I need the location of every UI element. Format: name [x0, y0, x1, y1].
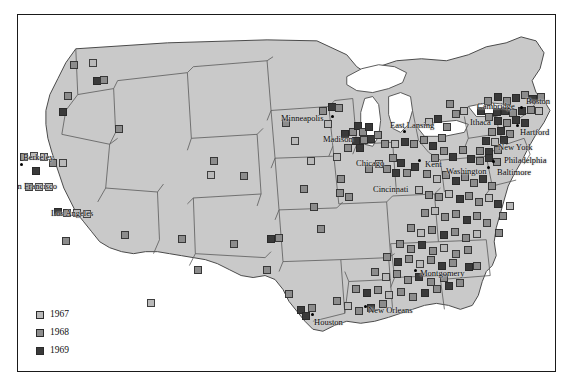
map-marker-1967: [385, 291, 393, 299]
map-marker-1968: [451, 228, 459, 236]
map-marker-1967: [440, 244, 448, 252]
map-marker-1968: [465, 192, 473, 200]
map-marker-1969: [465, 263, 473, 271]
map-marker-1969: [440, 231, 448, 239]
legend-item-1969: 1969: [36, 343, 69, 359]
map-marker-1968: [495, 229, 503, 237]
city-label: Minneapolis: [281, 114, 324, 123]
map-marker-1968: [464, 246, 472, 254]
legend-item-1967: 1967: [36, 307, 69, 323]
map-marker-1967: [506, 202, 514, 210]
map-marker-1969: [302, 312, 310, 320]
city-label: Baltimore: [497, 168, 531, 177]
map-marker-1969: [467, 155, 475, 163]
map-marker-1968: [470, 179, 478, 187]
map-marker-1967: [147, 299, 155, 307]
legend-item-1968: 1968: [36, 325, 69, 341]
map-marker-1967: [416, 260, 424, 268]
map-marker-1969: [418, 241, 426, 249]
map-marker-1969: [356, 144, 364, 152]
map-marker-1967: [485, 194, 493, 202]
map-marker-1967: [307, 157, 315, 165]
map-marker-1968: [462, 234, 470, 242]
city-label: San Francisco: [17, 182, 57, 191]
legend-label: 1968: [50, 328, 69, 338]
map-marker-1968: [421, 209, 429, 217]
map-marker-1968: [405, 255, 413, 263]
map-marker-1969: [429, 142, 437, 150]
map-marker-1968: [407, 224, 415, 232]
map-marker-1968: [333, 297, 341, 305]
map-marker-1967: [344, 302, 352, 310]
legend: 196719681969: [36, 307, 69, 361]
map-marker-1968: [440, 147, 448, 155]
map-marker-1969: [365, 123, 373, 131]
map-marker-1969: [494, 117, 502, 125]
map-marker-1967: [391, 140, 399, 148]
map-marker-1967: [460, 107, 468, 115]
map-marker-1968: [407, 245, 415, 253]
city-label: Montgomery: [420, 269, 464, 278]
map-marker-1968: [503, 119, 511, 127]
map-canvas: [18, 15, 555, 371]
map-marker-1968: [275, 234, 283, 242]
city-label: Philadelphia: [504, 156, 547, 165]
map-marker-1968: [335, 104, 343, 112]
map-marker-1968: [441, 213, 449, 221]
map-frame: BerkeleySan FranciscoLos AngelesMinneapo…: [17, 14, 556, 372]
city-dot: [418, 159, 421, 162]
map-marker-1968: [420, 136, 428, 144]
map-marker-1968: [240, 172, 248, 180]
map-marker-1968: [352, 285, 360, 293]
city-label: Madison: [323, 135, 353, 144]
map-marker-1969: [456, 195, 464, 203]
map-marker-1967: [89, 59, 97, 67]
city-label: Boston: [526, 97, 550, 106]
map-marker-1967: [382, 273, 390, 281]
map-marker-1969: [494, 200, 502, 208]
map-marker-1969: [421, 289, 429, 297]
map-marker-1968: [263, 266, 271, 274]
map-marker-1968: [423, 170, 431, 178]
map-marker-1968: [476, 147, 484, 155]
map-marker-1969: [411, 163, 419, 171]
map-marker-1968: [337, 175, 345, 183]
city-label: Ithaca: [470, 118, 491, 127]
map-marker-1968: [64, 92, 72, 100]
dark-gray-square: [36, 347, 44, 355]
map-marker-1968: [70, 61, 78, 69]
map-marker-1969: [363, 289, 371, 297]
map-marker-1968: [178, 235, 186, 243]
map-marker-1968: [374, 286, 382, 294]
city-label: Kent: [425, 160, 442, 169]
map-marker-1968: [403, 169, 411, 177]
map-marker-1968: [397, 288, 405, 296]
map-marker-1968: [452, 250, 460, 258]
map-marker-1967: [431, 207, 439, 215]
map-marker-1968: [381, 140, 389, 148]
map-marker-1969: [59, 108, 67, 116]
map-marker-1968: [452, 210, 460, 218]
map-marker-1968: [435, 193, 443, 201]
map-marker-1968: [371, 268, 379, 276]
map-marker-1968: [389, 154, 397, 162]
medium-gray-square: [36, 329, 44, 337]
city-label: Cincinnati: [373, 185, 408, 194]
map-marker-1967: [417, 229, 425, 237]
city-label: East Lansing: [390, 121, 434, 130]
map-marker-1968: [355, 307, 363, 315]
city-label: New Orleans: [368, 306, 413, 315]
map-marker-1968: [374, 131, 382, 139]
map-marker-1969: [397, 159, 405, 167]
map-marker-1968: [452, 110, 460, 118]
map-marker-1969: [445, 282, 453, 290]
map-marker-1968: [433, 285, 441, 293]
map-marker-1968: [409, 293, 417, 301]
map-marker-1967: [433, 175, 441, 183]
map-marker-1968: [345, 193, 353, 201]
map-marker-1968: [210, 157, 218, 165]
map-marker-1969: [394, 258, 402, 266]
map-marker-1968: [427, 256, 435, 264]
city-dot: [520, 106, 523, 109]
map-marker-1968: [308, 304, 316, 312]
